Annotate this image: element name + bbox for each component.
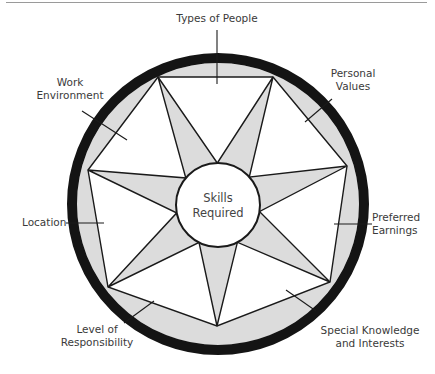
- label-special-knowledge: Special Knowledge: [321, 324, 420, 336]
- label-types-of-people: Types of People: [175, 12, 257, 24]
- label-location: Location: [22, 216, 66, 228]
- center-hub: [176, 163, 260, 247]
- career-wheel-diagram: SkillsRequired Types of PeoplePersonalVa…: [0, 0, 435, 374]
- label-level-of-responsibility: Level of: [76, 323, 117, 335]
- label-preferred-earnings: Preferred: [372, 211, 420, 223]
- center-label: Required: [192, 206, 243, 220]
- label-preferred-earnings: Earnings: [372, 224, 418, 236]
- label-work-environment: Work: [57, 76, 85, 88]
- label-work-environment: Environment: [36, 89, 103, 101]
- label-personal-values: Personal: [331, 67, 376, 79]
- label-personal-values: Values: [336, 80, 370, 92]
- label-level-of-responsibility: Responsibility: [61, 336, 134, 348]
- center-label: Skills: [203, 191, 233, 205]
- label-special-knowledge: and Interests: [335, 337, 404, 349]
